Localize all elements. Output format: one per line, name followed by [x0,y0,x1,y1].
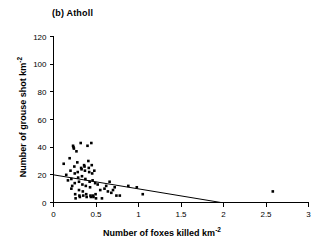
data-point [78,180,81,183]
data-point [83,165,86,168]
data-point [108,180,111,183]
data-point [69,169,72,172]
data-point-series [62,142,274,200]
data-point [79,142,82,145]
x-axis-title-exponent: -2 [215,226,221,233]
x-tick-label: 3 [306,210,311,219]
data-point [85,185,88,188]
data-point [70,187,73,190]
data-point [96,183,99,186]
panel-title: (b) Atholl [52,8,93,18]
data-point [112,189,115,192]
y-axis-title-text: Number of grouse shot km [18,63,28,178]
y-axis-title-exponent: -2 [16,57,23,63]
data-point [76,171,79,174]
x-tick-label: 0 [51,210,56,219]
data-point [82,190,85,193]
data-point [92,196,95,199]
data-point [81,183,84,186]
data-point [141,193,144,196]
y-axis-tick-labels: 020406080100120 [33,33,47,208]
data-point [91,179,94,182]
data-point [87,167,90,170]
data-point [90,164,93,167]
data-point [70,178,73,181]
data-point [74,197,77,200]
data-point [127,185,130,188]
data-point [82,194,85,197]
data-point [88,180,91,183]
data-point [88,171,91,174]
data-point [95,197,98,200]
y-tick-label: 0 [42,199,47,208]
data-point [113,186,116,189]
y-tick-label: 80 [38,88,47,97]
data-point [107,190,110,193]
data-point [85,193,88,196]
data-point [73,172,76,175]
data-point [93,169,96,172]
x-axis-ticks [54,203,309,207]
data-point [86,144,89,147]
figure-panel: (b) Atholl Number of grouse shot km-2 Nu… [0,0,324,248]
x-axis-tick-labels: 00.511.522.53 [51,210,311,219]
data-point [87,160,90,163]
x-axis-title: Number of foxes killed km-2 [0,226,324,238]
data-point [119,194,122,197]
data-point [68,157,71,160]
x-tick-label: 1.5 [175,210,187,219]
data-point [91,172,94,175]
y-tick-label: 100 [33,60,47,69]
data-point [84,178,87,181]
data-point [73,165,76,168]
x-tick-label: 1 [136,210,141,219]
scatter-plot-canvas: 020406080100120 00.511.522.53 [0,0,324,248]
data-point [94,193,97,196]
y-tick-label: 60 [38,116,47,125]
data-point [136,186,139,189]
data-point [75,150,78,153]
regression-line [54,175,221,203]
y-axis-group: 020406080100120 [33,33,53,208]
data-point [77,176,80,179]
data-point [73,182,76,185]
x-axis-title-text: Number of foxes killed km [103,228,215,238]
data-point [84,169,87,172]
data-point [101,197,104,200]
data-point [90,142,93,145]
data-point [78,189,81,192]
data-point [71,185,74,188]
x-tick-label: 2 [221,210,226,219]
x-tick-label: 0.5 [90,210,102,219]
data-point [65,174,68,177]
data-point [115,194,118,197]
data-point [94,182,97,185]
data-point [85,196,88,199]
x-tick-label: 2.5 [260,210,272,219]
data-point [80,168,83,171]
y-tick-label: 20 [38,171,47,180]
data-point [103,187,106,190]
data-point [62,162,65,165]
y-tick-label: 40 [38,143,47,152]
data-point [79,196,82,199]
data-point [67,179,70,182]
data-point [76,161,79,164]
data-point [73,147,76,150]
data-point [89,186,92,189]
data-point [110,192,113,195]
data-point [74,193,77,196]
data-point [272,190,275,193]
data-point [99,189,102,192]
y-axis-title: Number of grouse shot km-2 [16,32,28,202]
y-axis-ticks [50,37,54,203]
data-point [105,185,108,188]
x-axis-group: 00.511.522.53 [51,203,311,219]
y-tick-label: 120 [33,33,47,42]
data-point [81,175,84,178]
